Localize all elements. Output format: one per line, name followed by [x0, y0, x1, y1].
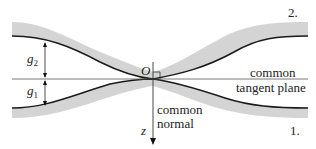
gap-g2-label: g2: [27, 52, 38, 70]
body-1-label: 1.: [290, 124, 300, 137]
tangent-plane-label-line2: tangent plane: [236, 81, 306, 94]
z-axis-arrowhead: [150, 138, 156, 145]
g2-arrow-bottom: [43, 73, 47, 78]
gap-g1-label: g1: [27, 84, 38, 102]
tangent-plane-label-line1: common: [250, 66, 296, 79]
origin-label: O: [141, 64, 150, 77]
body-2-label: 2.: [288, 6, 298, 19]
z-axis-label: z: [141, 124, 146, 137]
normal-label-line2: normal: [157, 117, 194, 130]
g2-arrow-top: [43, 42, 47, 47]
g1-arrow-top: [43, 80, 47, 85]
gap-g1-subscript: 1: [34, 90, 39, 100]
gap-g2-subscript: 2: [34, 58, 39, 68]
normal-label-line1: common: [157, 103, 203, 116]
